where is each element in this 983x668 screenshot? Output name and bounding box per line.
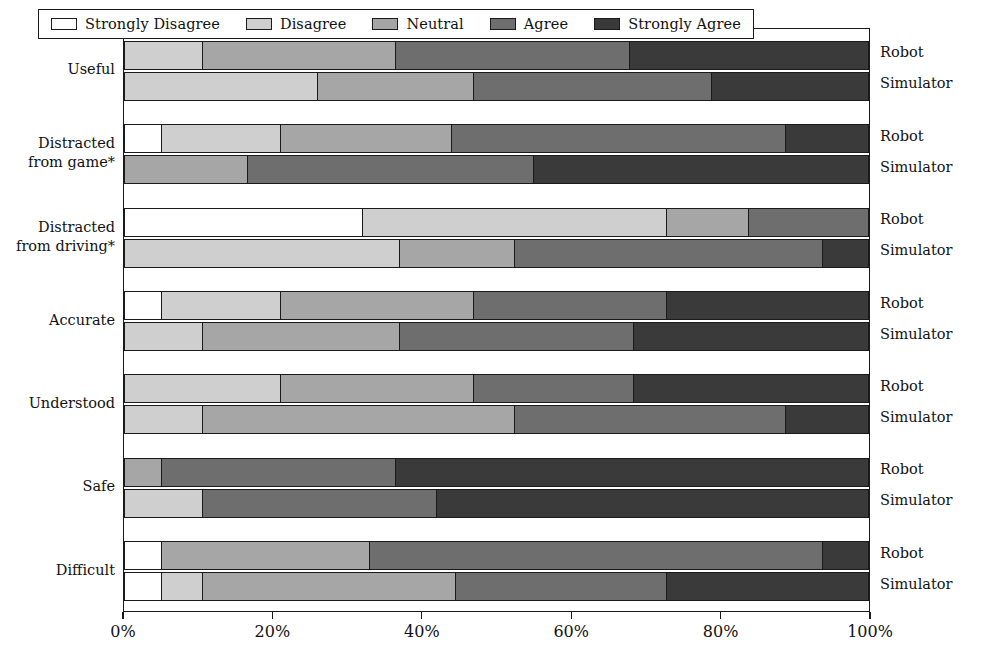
legend-label: Disagree: [280, 16, 347, 32]
bar-segment: [125, 156, 248, 183]
category-label-line: Useful: [5, 60, 115, 79]
bar-segment: [786, 406, 868, 433]
bar-segment: [125, 292, 162, 319]
legend-entry: Strongly Agree: [594, 16, 741, 32]
bar-segment: [515, 406, 786, 433]
category-label-line: Distracted: [5, 218, 115, 237]
x-tick-mark: [571, 612, 572, 619]
x-tick-mark: [272, 612, 273, 619]
bar-segment: [634, 323, 868, 350]
stacked-bar: [124, 208, 869, 237]
x-tick-label: 80%: [703, 622, 739, 641]
series-label-robot: Robot: [870, 128, 924, 144]
bar-segment: [823, 240, 868, 267]
stacked-bar: [124, 374, 869, 403]
bar-segment: [786, 125, 868, 152]
x-tick-label: 60%: [553, 622, 589, 641]
plot-area: [123, 28, 870, 612]
bar-segment: [203, 406, 515, 433]
x-tick-label: 20%: [255, 622, 291, 641]
x-tick-mark: [421, 612, 422, 619]
x-axis: 0%20%40%60%80%100%: [123, 612, 870, 662]
bar-segment: [125, 73, 318, 100]
stacked-bar: [124, 541, 869, 570]
series-label-simulator: Simulator: [870, 576, 952, 592]
legend-label: Agree: [524, 16, 568, 32]
series-label-robot: Robot: [870, 295, 924, 311]
category-label-line: Safe: [5, 477, 115, 496]
legend-swatch-icon: [246, 18, 272, 30]
bar-segment: [125, 459, 162, 486]
bar-segment: [203, 42, 396, 69]
series-label-simulator: Simulator: [870, 409, 952, 425]
stacked-bar: [124, 405, 869, 434]
bar-segment: [248, 156, 534, 183]
category-label: Useful: [5, 60, 123, 79]
legend-label: Strongly Disagree: [85, 16, 220, 32]
bar-segment: [400, 240, 515, 267]
bar-segment: [630, 42, 868, 69]
bar-segment: [634, 375, 868, 402]
x-tick-label: 100%: [847, 622, 893, 641]
series-label-robot: Robot: [870, 44, 924, 60]
stacked-bar: [124, 291, 869, 320]
legend-swatch-icon: [490, 18, 516, 30]
category-label: Safe: [5, 477, 123, 496]
series-label-robot: Robot: [870, 211, 924, 227]
category-label: Understood: [5, 394, 123, 413]
bar-segment: [125, 573, 162, 600]
category-label: Distractedfrom driving*: [5, 218, 123, 256]
category-label-line: Distracted: [5, 134, 115, 153]
bar-segment: [162, 573, 203, 600]
series-label-simulator: Simulator: [870, 492, 952, 508]
category-label: Difficult: [5, 561, 123, 580]
series-label-simulator: Simulator: [870, 75, 952, 91]
bar-segment: [474, 73, 712, 100]
bar-segment: [125, 323, 203, 350]
x-tick-mark: [720, 612, 721, 619]
stacked-bar: [124, 489, 869, 518]
bar-segment: [370, 542, 823, 569]
category-axis-labels: UsefulDistractedfrom game*Distractedfrom…: [0, 28, 123, 612]
bar-segment: [162, 292, 281, 319]
bar-segment: [125, 542, 162, 569]
bar-segment: [281, 375, 474, 402]
series-label-simulator: Simulator: [870, 326, 952, 342]
bar-segment: [667, 292, 868, 319]
legend-entry: Agree: [490, 16, 568, 32]
stacked-bar: [124, 124, 869, 153]
series-label-simulator: Simulator: [870, 159, 952, 175]
category-label-line: from game*: [5, 153, 115, 172]
bar-segment: [456, 573, 668, 600]
category-label-line: from driving*: [5, 237, 115, 256]
series-label-simulator: Simulator: [870, 242, 952, 258]
bar-segment: [162, 459, 396, 486]
series-label-robot: Robot: [870, 545, 924, 561]
stacked-bar: [124, 72, 869, 101]
bar-segment: [363, 209, 668, 236]
bar-segment: [749, 209, 868, 236]
legend-entry: Disagree: [246, 16, 347, 32]
bar-segment: [667, 209, 749, 236]
bar-segment: [125, 240, 400, 267]
legend-swatch-icon: [51, 18, 77, 30]
bar-segment: [667, 573, 868, 600]
stacked-bar: [124, 41, 869, 70]
bar-segment: [203, 573, 456, 600]
bar-segment: [125, 42, 203, 69]
legend-swatch-icon: [594, 18, 620, 30]
category-label-line: Understood: [5, 394, 115, 413]
legend-entry: Strongly Disagree: [51, 16, 220, 32]
bar-segment: [534, 156, 868, 183]
legend-entry: Neutral: [372, 16, 463, 32]
bar-segment: [125, 406, 203, 433]
bar-segment: [396, 459, 868, 486]
bar-segment: [281, 125, 452, 152]
bar-segment: [125, 490, 203, 517]
series-axis-labels: RobotSimulatorRobotSimulatorRobotSimulat…: [870, 28, 983, 612]
stacked-bar: [124, 458, 869, 487]
bar-segment: [515, 240, 823, 267]
bar-segment: [318, 73, 474, 100]
bar-segment: [125, 209, 363, 236]
bar-segment: [712, 73, 868, 100]
